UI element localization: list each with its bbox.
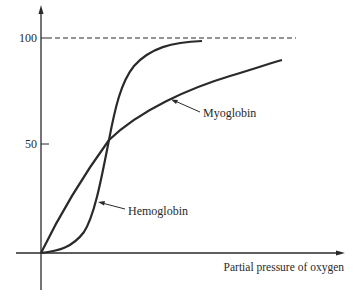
x-axis-label: Partial pressure of oxygen <box>224 261 345 274</box>
myoglobin-curve <box>41 60 282 253</box>
hemoglobin-label: Hemoglobin <box>128 204 188 218</box>
y-tick-label-100: 100 <box>19 31 37 45</box>
hemoglobin-pointer-arrow-icon <box>98 201 105 206</box>
y-tick-label-50: 50 <box>25 137 37 151</box>
y-axis-arrow-icon <box>39 5 44 14</box>
myoglobin-pointer-arrow-icon <box>171 100 178 105</box>
myoglobin-pointer <box>175 101 200 112</box>
x-axis-arrow-icon <box>336 251 345 256</box>
oxygen-binding-chart: 100 50 Myoglobin Hemoglobin Partial pres… <box>0 0 355 300</box>
hemoglobin-pointer <box>102 203 125 209</box>
hemoglobin-curve <box>41 41 202 253</box>
myoglobin-label: Myoglobin <box>203 106 256 120</box>
